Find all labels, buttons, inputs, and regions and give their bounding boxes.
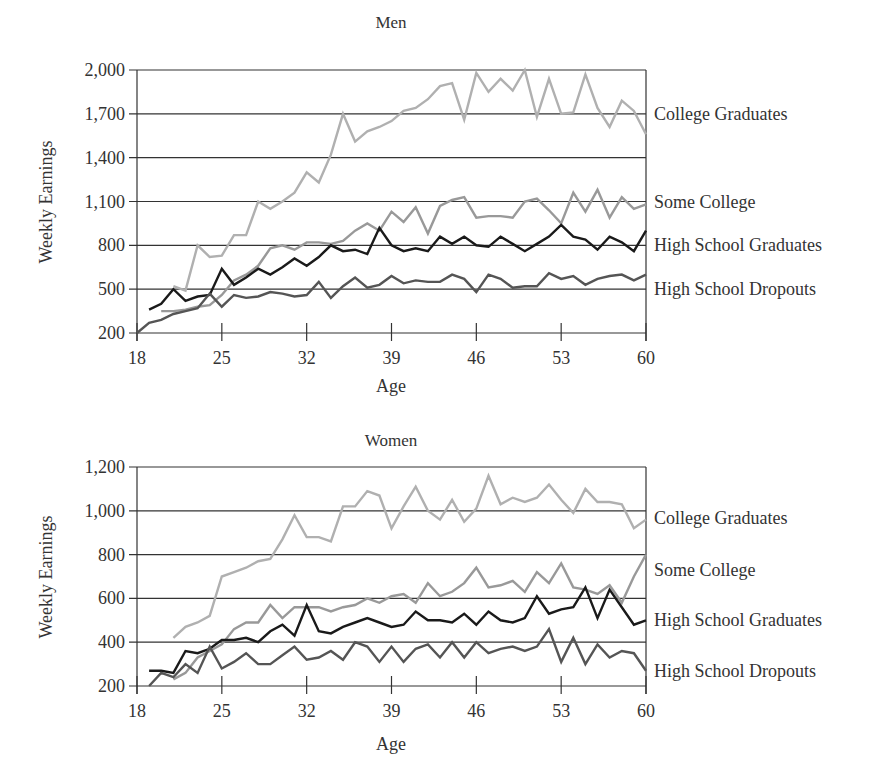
women-earnings-chart: Women Weekly Earnings Age 2004006008001,…	[0, 420, 881, 774]
y-tick-label: 1,200	[85, 457, 126, 477]
x-tick-label: 60	[637, 348, 655, 368]
legend-label: Some College	[654, 560, 756, 580]
legend-label: High School Dropouts	[654, 279, 816, 299]
x-tick-label: 46	[467, 701, 485, 721]
x-tick-label: 32	[298, 348, 316, 368]
y-tick-label: 400	[98, 632, 125, 652]
chart-title: Women	[365, 431, 418, 450]
plot-area: 2004006008001,0001,20018253239465360Coll…	[85, 457, 822, 721]
y-tick-label: 500	[98, 279, 125, 299]
x-tick-label: 46	[467, 348, 485, 368]
legend-label: Some College	[654, 192, 756, 212]
men-chart-svg: Men Weekly Earnings Age 2005008001,1001,…	[0, 0, 881, 400]
y-axis-label: Weekly Earnings	[36, 515, 56, 638]
x-tick-label: 39	[383, 348, 401, 368]
y-tick-label: 1,100	[85, 192, 126, 212]
y-tick-label: 800	[98, 545, 125, 565]
y-tick-label: 800	[98, 235, 125, 255]
y-tick-label: 2,000	[85, 60, 126, 80]
legend-label: College Graduates	[654, 508, 787, 528]
x-tick-label: 18	[128, 701, 146, 721]
men-earnings-chart: Men Weekly Earnings Age 2005008001,1001,…	[0, 0, 881, 400]
chart-title: Men	[375, 13, 407, 32]
series-line-college-graduates	[173, 476, 646, 638]
series-line-high-school-graduates	[149, 587, 646, 673]
series-line-high-school-graduates	[149, 225, 646, 310]
x-tick-label: 39	[383, 701, 401, 721]
x-tick-label: 53	[552, 701, 570, 721]
y-tick-label: 1,700	[85, 104, 126, 124]
y-tick-label: 200	[98, 676, 125, 696]
x-tick-label: 60	[637, 701, 655, 721]
x-tick-label: 25	[213, 348, 231, 368]
series-line-college-graduates	[173, 70, 646, 291]
y-tick-label: 200	[98, 323, 125, 343]
y-tick-label: 1,400	[85, 148, 126, 168]
y-tick-label: 1,000	[85, 501, 126, 521]
x-tick-label: 18	[128, 348, 146, 368]
plot-area: 2005008001,1001,4001,7002,00018253239465…	[85, 60, 822, 368]
legend-label: High School Dropouts	[654, 661, 816, 681]
legend-label: High School Graduates	[654, 235, 822, 255]
legend-label: High School Graduates	[654, 610, 822, 630]
y-axis-label: Weekly Earnings	[36, 140, 56, 263]
women-chart-svg: Women Weekly Earnings Age 2004006008001,…	[0, 420, 881, 774]
x-tick-label: 32	[298, 701, 316, 721]
x-axis-label: Age	[376, 734, 406, 754]
legend-label: College Graduates	[654, 104, 787, 124]
y-tick-label: 600	[98, 588, 125, 608]
x-tick-label: 25	[213, 701, 231, 721]
x-axis-label: Age	[376, 376, 406, 396]
x-tick-label: 53	[552, 348, 570, 368]
series-line-high-school-dropouts	[149, 629, 646, 686]
